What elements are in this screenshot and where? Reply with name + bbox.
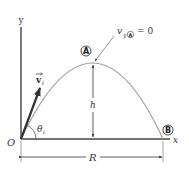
velocity-vector-label: v i <box>35 73 44 86</box>
svg-text:v: v <box>117 26 122 36</box>
x-axis: x <box>21 135 178 145</box>
svg-text:i: i <box>43 128 45 135</box>
point-b-label: B <box>163 125 173 135</box>
annotation-leader <box>95 36 114 61</box>
svg-text:A: A <box>83 47 90 56</box>
svg-text:i: i <box>42 79 44 86</box>
vy-annotation: v y A = 0 <box>117 26 153 39</box>
svg-text:= 0: = 0 <box>137 26 153 36</box>
svg-text:y: y <box>122 31 127 39</box>
svg-text:A: A <box>129 32 133 38</box>
height-label: h <box>90 100 96 110</box>
svg-text:B: B <box>165 126 171 135</box>
origin-label: O <box>7 137 15 148</box>
angle-label: θ i <box>37 124 45 135</box>
y-axis: y <box>18 15 25 139</box>
projectile-diagram: y x O v i θ i A v y A = 0 h <box>0 0 189 170</box>
point-a-label: A <box>81 46 91 56</box>
range-dimension: R <box>21 141 163 163</box>
angle-arc <box>27 125 37 139</box>
svg-text:v: v <box>35 75 42 85</box>
height-dimension: h <box>90 65 96 137</box>
x-axis-label: x <box>173 135 178 145</box>
y-axis-label: y <box>18 15 25 25</box>
range-label: R <box>88 152 97 163</box>
